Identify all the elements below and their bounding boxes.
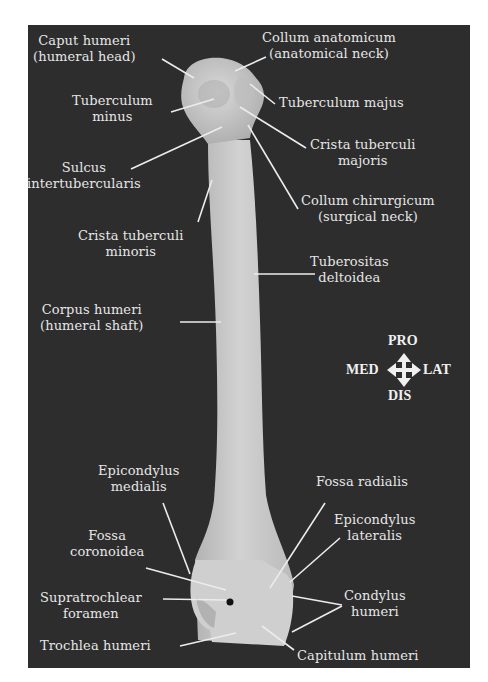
label-supratrochlear-foramen: Supratrochlear foramen [40,590,142,622]
label-tuberculum-minus: Tuberculum minus [72,93,153,125]
label-sulcus-intertubercularis: Sulcus intertubercularis [27,160,141,192]
orientation-lateral: LAT [423,362,451,378]
orientation-medial: MED [346,362,379,378]
label-caput-humeri: Caput humeri (humeral head) [33,33,136,65]
orientation-proximal: PRO [388,333,418,349]
label-condylus-humeri: Condylus humeri [344,588,406,620]
label-epicondylus-medialis: Epicondylus medialis [98,463,179,495]
label-collum-anatomicum: Collum anatomicum (anatomical neck) [262,30,396,62]
label-crista-tuberculi-majoris: Crista tuberculi majoris [310,137,416,169]
label-fossa-radialis: Fossa radialis [316,474,408,490]
label-tuberositas-deltoidea: Tuberositas deltoidea [310,254,389,286]
label-crista-tuberculi-minoris: Crista tuberculi minoris [78,228,184,260]
foramen-dot [227,599,234,606]
humerus-bone [181,58,294,646]
label-corpus-humeri: Corpus humeri (humeral shaft) [40,302,144,334]
label-tuberculum-majus: Tuberculum majus [279,95,404,111]
label-epicondylus-lateralis: Epicondylus lateralis [334,512,415,544]
orientation-distal: DIS [388,388,411,404]
label-fossa-coronoidea: Fossa coronoidea [70,528,144,560]
four-way-arrow-icon [387,353,421,387]
label-capitulum-humeri: Capitulum humeri [297,648,419,664]
label-collum-chirurgicum: Collum chirurgicum (surgical neck) [301,193,435,225]
label-trochlea-humeri: Trochlea humeri [40,638,151,654]
